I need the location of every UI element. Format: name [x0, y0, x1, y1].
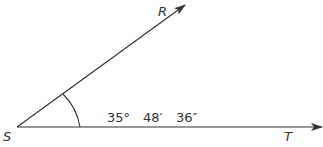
angle-arc: [63, 94, 80, 127]
label-r: R: [158, 4, 167, 19]
angle-degrees: 35°: [107, 110, 130, 125]
ray-sr: [17, 5, 185, 127]
angle-seconds: 36″: [176, 110, 198, 125]
angle-minutes: 48′: [143, 110, 163, 125]
angle-diagram: R S T 35° 48′ 36″: [0, 0, 323, 147]
label-t: T: [284, 129, 293, 144]
label-s: S: [3, 129, 11, 144]
